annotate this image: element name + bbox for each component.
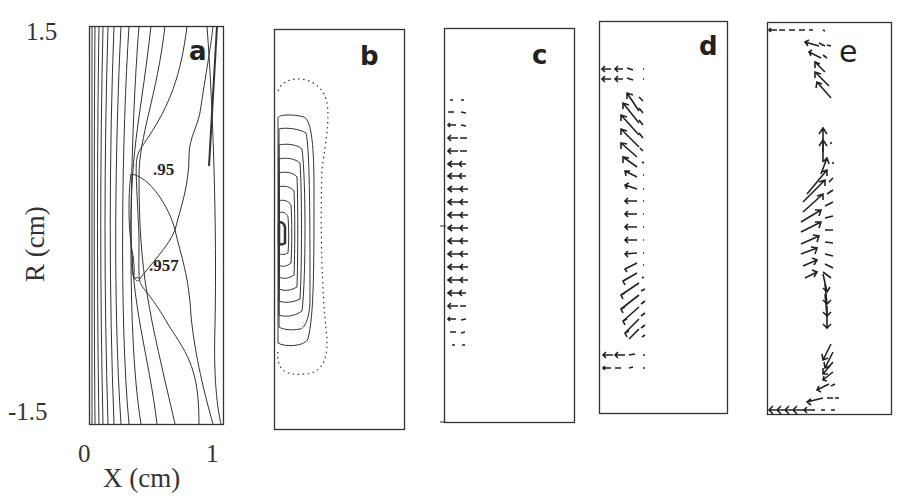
panel-letter-a: a [189,36,207,66]
panel-letter-d: d [699,31,718,61]
panel-a-plot [89,26,225,426]
panel-b: b [274,29,406,431]
panel-d: d [599,21,731,417]
arrow-field-d [602,66,645,370]
panel-letter-e: e [839,34,857,69]
y-axis-label: R (cm) [20,206,51,282]
x-axis-label: X (cm) [103,463,180,494]
panel-c-plot [444,28,578,430]
panel-c: c [444,28,578,430]
arrow-field-e [769,28,839,414]
panel-a: a .95 .957 [89,26,225,426]
y-tick-top: 1.5 [26,18,57,46]
contour-label-0957: .957 [149,256,179,276]
panel-letter-b: b [360,41,379,71]
panel-e: e [767,22,895,418]
y-tick-bottom: -1.5 [8,398,48,426]
panel-b-plot [274,29,406,431]
arrow-row [448,100,468,345]
panel-e-plot [767,22,895,418]
x-tick-right: 1 [206,440,219,468]
contour-label-095: .95 [153,160,174,180]
x-tick-left: 0 [78,440,91,468]
panel-letter-c: c [532,40,547,70]
panel-d-plot [599,21,731,417]
